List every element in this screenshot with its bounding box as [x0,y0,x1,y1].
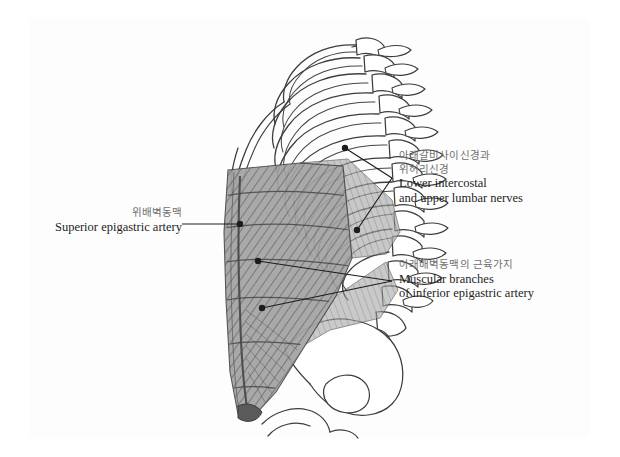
label-lower-intercostal-nerves: 아래갈비사이신경과 위허리신경 Lower intercostal and up… [399,149,523,205]
label-lower-intercostal-nerves-english-1: Lower intercostal [399,176,523,191]
label-lower-intercostal-nerves-korean-2: 위허리신경 [399,163,523,177]
label-muscular-branches-korean-1: 아래배벽동맥의 근육가지 [399,258,534,272]
label-superior-epigastric-artery-english-1: Superior epigastric artery [23,220,182,235]
label-muscular-branches-inferior-epigastric: 아래배벽동맥의 근육가지 Muscular branches of inferi… [399,258,534,301]
label-muscular-branches-english-2: of inferior epigastric artery [399,286,534,301]
anatomy-figure-page: 아래갈비사이신경과 위허리신경 Lower intercostal and up… [0,0,620,457]
label-lower-intercostal-nerves-english-2: and upper lumbar nerves [399,191,523,206]
label-muscular-branches-english-1: Muscular branches [399,272,534,287]
label-lower-intercostal-nerves-korean-1: 아래갈비사이신경과 [399,149,523,163]
label-superior-epigastric-artery-korean-1: 위배벽동맥 [23,206,182,220]
label-superior-epigastric-artery: 위배벽동맥 Superior epigastric artery [23,206,182,234]
